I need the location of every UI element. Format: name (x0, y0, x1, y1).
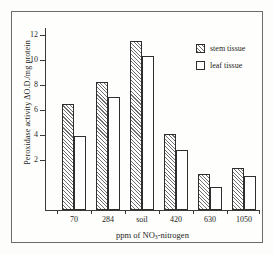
x-tick-1 (91, 210, 92, 214)
y-tick-8 (40, 85, 45, 86)
y-axis-title-text: Peroxidase activity (23, 100, 32, 165)
bar-leaf-1050 (244, 176, 256, 210)
bar-leaf-70 (74, 136, 86, 210)
bar-stem-soil (130, 41, 142, 210)
legend: stem tissue leaf tissue (196, 42, 262, 76)
bar-leaf-284 (108, 97, 120, 210)
bar-stem-284 (96, 82, 108, 210)
legend-label-stem-tissue: stem tissue (210, 44, 245, 53)
bar-stem-70 (62, 104, 74, 210)
y-tick-10 (40, 60, 45, 61)
x-axis-title-prefix: ppm of NO (116, 230, 155, 240)
x-tick-0 (57, 210, 58, 214)
y-tick-6 (40, 110, 45, 111)
legend-item-leaf-tissue: leaf tissue (196, 59, 262, 72)
bar-stem-420 (164, 134, 176, 210)
y-axis-title: Peroxidase activity ΔO.D./mg protein (23, 28, 32, 178)
y-axis-line (45, 28, 46, 210)
legend-label-leaf-tissue: leaf tissue (210, 61, 242, 70)
y-tick-2 (40, 160, 45, 161)
x-tick-5 (227, 210, 228, 214)
x-tick-2 (125, 210, 126, 214)
y-tick-4 (40, 135, 45, 136)
x-tick-3 (159, 210, 160, 214)
bar-leaf-420 (176, 150, 188, 210)
y-tick-12 (40, 35, 45, 36)
x-label-1050: 1050 (224, 215, 264, 224)
bar-chart-plot: 12 10 8 6 4 2 Peroxidase activity ΔO.D./… (0, 0, 274, 254)
hatched-swatch-icon (196, 44, 205, 53)
bar-stem-630 (198, 174, 210, 210)
bar-leaf-soil (142, 56, 154, 210)
x-tick-4 (193, 210, 194, 214)
x-axis-title: ppm of NO3-nitrogen (45, 231, 260, 242)
x-tick-6 (259, 210, 260, 214)
bar-leaf-630 (210, 187, 222, 210)
bar-stem-1050 (232, 168, 244, 210)
legend-item-stem-tissue: stem tissue (196, 42, 262, 55)
figure: 12 10 8 6 4 2 Peroxidase activity ΔO.D./… (0, 0, 274, 254)
y-axis-title-symbol: ΔO.D./mg protein (23, 40, 32, 99)
x-axis-title-suffix: -nitrogen (158, 230, 189, 240)
white-swatch-icon (196, 61, 205, 70)
